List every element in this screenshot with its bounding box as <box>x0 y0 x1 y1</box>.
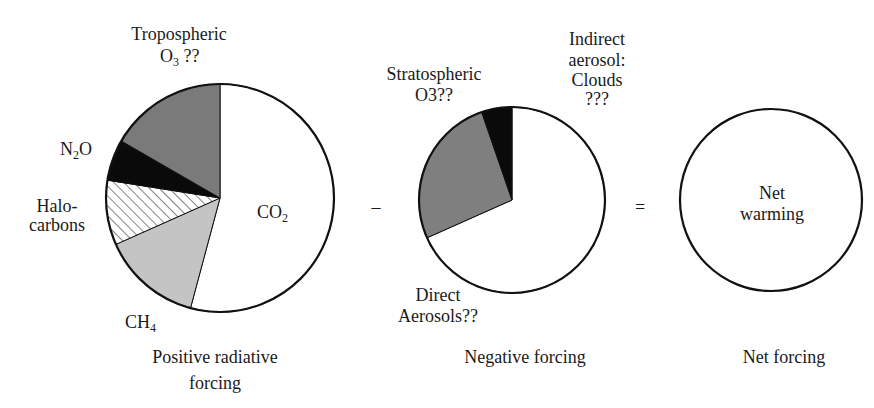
label-halo: Halo- <box>37 196 78 216</box>
label-aerosols: Aerosols?? <box>398 306 478 326</box>
label-tropospheric: Tropospheric <box>131 24 226 44</box>
caption-negative: Negative forcing <box>464 347 585 367</box>
caption-positive-line1: Positive radiative <box>152 347 277 367</box>
label-strat-o3: O3?? <box>415 85 453 105</box>
equals-operator: = <box>635 197 645 217</box>
label-carbons: carbons <box>29 215 85 235</box>
negative-forcing-pie: Stratospheric O3?? Indirect aerosol: Clo… <box>387 29 626 367</box>
radiative-forcing-diagram: Tropospheric O3 ?? N2O Halo- carbons CO2… <box>0 0 874 408</box>
label-direct: Direct <box>416 285 461 305</box>
minus-operator: – <box>371 197 382 217</box>
label-net: Net <box>759 183 785 203</box>
label-n2o: N2O <box>60 139 92 162</box>
label-clouds: Clouds <box>571 70 622 90</box>
label-clouds-qmarks: ??? <box>585 89 609 109</box>
label-ch4: CH4 <box>125 312 156 335</box>
caption-positive-line2: forcing <box>189 373 241 393</box>
label-aerosol: aerosol: <box>569 50 626 70</box>
positive-forcing-pie: Tropospheric O3 ?? N2O Halo- carbons CO2… <box>29 24 334 393</box>
net-forcing-circle: Net warming Net forcing <box>680 109 862 367</box>
label-stratospheric: Stratospheric <box>387 64 482 84</box>
label-warming: warming <box>740 204 804 224</box>
caption-net: Net forcing <box>743 347 825 367</box>
label-trop-o3: O3 ?? <box>160 46 199 69</box>
label-indirect: Indirect <box>569 29 625 49</box>
